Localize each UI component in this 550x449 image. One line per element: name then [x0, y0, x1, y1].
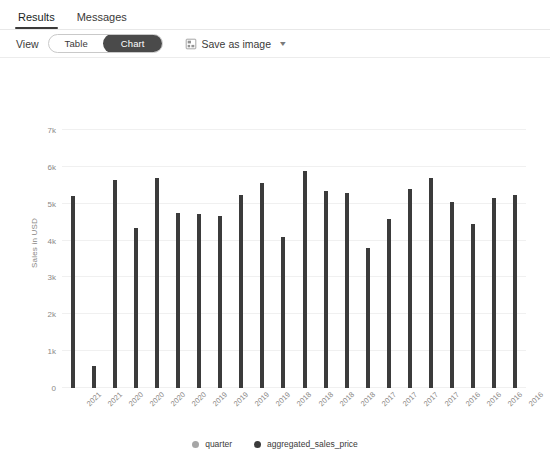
tab-messages-label: Messages: [77, 11, 127, 23]
bar[interactable]: [408, 189, 412, 388]
gridline: [62, 166, 526, 167]
y-axis-tick-label: 0: [22, 384, 56, 393]
plot-area: [62, 130, 526, 388]
x-axis-tick-label: 2017: [422, 390, 440, 408]
view-label: View: [16, 38, 39, 50]
gridline: [62, 313, 526, 314]
bar[interactable]: [387, 219, 391, 388]
bar[interactable]: [450, 202, 454, 388]
x-axis-tick-label: 2020: [127, 390, 145, 408]
chevron-down-icon[interactable]: ▾: [280, 40, 286, 48]
bar[interactable]: [471, 224, 475, 388]
bar[interactable]: [71, 196, 75, 388]
results-tabstrip: Results Messages: [0, 0, 550, 30]
legend-label-quarter: quarter: [205, 439, 232, 449]
bar[interactable]: [218, 216, 222, 388]
bar[interactable]: [366, 248, 370, 388]
bar[interactable]: [429, 178, 433, 388]
x-axis-tick-label: 2019: [232, 390, 250, 408]
x-axis-tick-label: 2017: [443, 390, 461, 408]
x-axis-tick-label: 2018: [295, 390, 313, 408]
x-axis-tick-label: 2019: [253, 390, 271, 408]
x-axis-tick-label: 2017: [401, 390, 419, 408]
bar[interactable]: [492, 198, 496, 388]
bar-chart: Sales in USD 01k2k3k4k5k6k7k 20212021202…: [0, 58, 550, 415]
x-axis-tick-label: 2018: [338, 390, 356, 408]
legend-item-aggregated-sales-price[interactable]: aggregated_sales_price: [254, 439, 358, 449]
legend-dot-icon: [192, 441, 199, 448]
legend-dot-icon: [254, 441, 261, 448]
tab-results[interactable]: Results: [16, 12, 57, 29]
x-axis-tick-label: 2016: [527, 390, 545, 408]
gridline: [62, 240, 526, 241]
view-toggle-table[interactable]: Table: [49, 35, 104, 52]
gridline: [62, 203, 526, 204]
y-axis-tick-label: 6k: [22, 162, 56, 171]
chart-legend: quarter aggregated_sales_price: [0, 439, 550, 449]
save-as-image-label: Save as image: [202, 38, 271, 50]
x-axis-tick-label: 2016: [506, 390, 524, 408]
x-axis-tick-label: 2018: [359, 390, 377, 408]
bar[interactable]: [260, 183, 264, 388]
bar[interactable]: [303, 171, 307, 388]
gridline: [62, 350, 526, 351]
legend-label-aggregated-sales-price: aggregated_sales_price: [267, 439, 358, 449]
x-axis-tick-label: 2020: [169, 390, 187, 408]
save-image-icon: [185, 38, 197, 50]
x-axis-tick-label: 2021: [84, 390, 102, 408]
x-axis-tick-label: 2017: [380, 390, 398, 408]
view-mode-toggle[interactable]: Table Chart: [48, 34, 163, 53]
bar[interactable]: [113, 180, 117, 388]
bar[interactable]: [134, 228, 138, 388]
bar[interactable]: [197, 214, 201, 388]
x-axis-ticks: 2021202120202020202020202019201920192019…: [62, 390, 526, 430]
chart-toolbar: View Table Chart Save as image ▾: [0, 30, 550, 58]
bar[interactable]: [92, 366, 96, 388]
x-axis-tick-label: 2016: [464, 390, 482, 408]
bar[interactable]: [513, 195, 517, 389]
bar[interactable]: [239, 195, 243, 388]
x-axis-tick-label: 2019: [211, 390, 229, 408]
bar[interactable]: [155, 178, 159, 388]
gridline: [62, 129, 526, 130]
tab-messages[interactable]: Messages: [75, 12, 129, 29]
y-axis-tick-label: 2k: [22, 310, 56, 319]
y-axis-tick-label: 4k: [22, 236, 56, 245]
bar[interactable]: [345, 193, 349, 388]
bar[interactable]: [176, 213, 180, 388]
gridline: [62, 276, 526, 277]
y-axis-tick-label: 5k: [22, 199, 56, 208]
x-axis-tick-label: 2021: [106, 390, 124, 408]
x-axis-tick-label: 2016: [485, 390, 503, 408]
tab-results-label: Results: [18, 11, 55, 23]
bar[interactable]: [281, 237, 285, 388]
view-toggle-chart[interactable]: Chart: [103, 34, 163, 53]
y-axis-tick-label: 7k: [22, 126, 56, 135]
bar[interactable]: [324, 191, 328, 388]
y-axis-tick-label: 3k: [22, 273, 56, 282]
y-axis-tick-label: 1k: [22, 347, 56, 356]
legend-item-quarter[interactable]: quarter: [192, 439, 232, 449]
x-axis-tick-label: 2020: [190, 390, 208, 408]
x-axis-tick-label: 2018: [316, 390, 334, 408]
x-axis-tick-label: 2020: [148, 390, 166, 408]
gridline: [62, 387, 526, 388]
save-as-image-button[interactable]: Save as image ▾: [185, 38, 285, 50]
x-axis-tick-label: 2019: [274, 390, 292, 408]
